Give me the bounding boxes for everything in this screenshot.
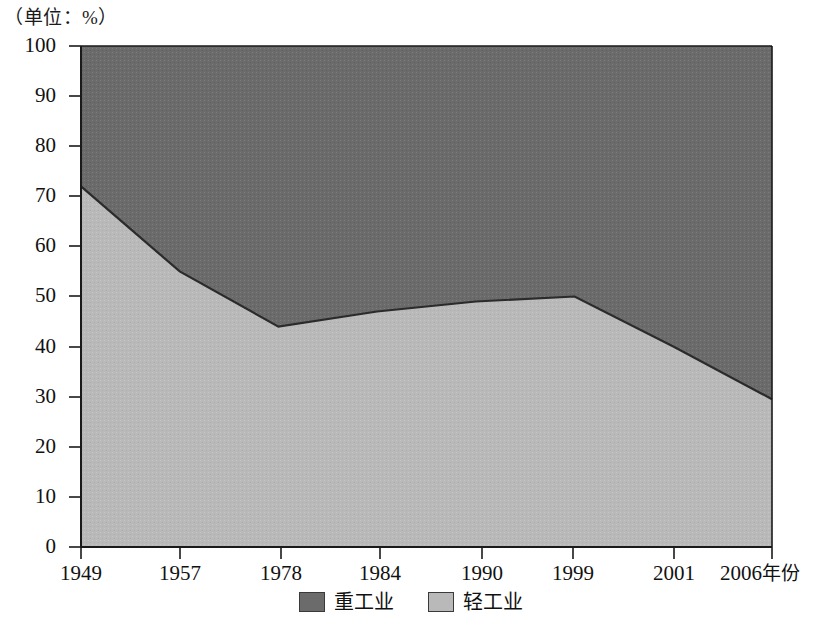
legend-item-light-industry: 轻工业 [428, 592, 523, 612]
y-tick-label-10: 10 [4, 486, 56, 507]
x-axis-ticks [81, 547, 772, 559]
y-axis-ticks [69, 46, 81, 547]
y-tick-label-100: 100 [4, 35, 56, 56]
chart-legend: 重工业 轻工业 [0, 592, 822, 612]
legend-label-light-industry: 轻工业 [463, 592, 523, 612]
x-tick-label-1999: 1999 [552, 563, 594, 584]
stacked-area-chart [0, 0, 822, 621]
y-tick-label-50: 50 [4, 285, 56, 306]
legend-item-heavy-industry: 重工业 [299, 592, 394, 612]
x-tick-label-1984: 1984 [359, 563, 401, 584]
legend-swatch-light-industry [428, 592, 454, 612]
y-tick-label-20: 20 [4, 436, 56, 457]
x-tick-label-2001: 2001 [653, 563, 695, 584]
legend-swatch-heavy-industry [299, 592, 325, 612]
x-tick-label-2006-with-unit: 2006年份 [720, 563, 800, 584]
x-tick-label-1990: 1990 [461, 563, 503, 584]
y-tick-label-70: 70 [4, 185, 56, 206]
y-tick-label-0: 0 [4, 536, 56, 557]
x-tick-label-1978: 1978 [260, 563, 302, 584]
y-tick-label-60: 60 [4, 235, 56, 256]
x-tick-label-1957: 1957 [159, 563, 201, 584]
legend-label-heavy-industry: 重工业 [334, 592, 394, 612]
x-tick-label-1949: 1949 [60, 563, 102, 584]
y-tick-label-40: 40 [4, 336, 56, 357]
y-tick-label-30: 30 [4, 386, 56, 407]
x-axis-unit-label: 年份 [762, 563, 800, 584]
y-tick-label-80: 80 [4, 135, 56, 156]
y-tick-label-90: 90 [4, 85, 56, 106]
x-tick-label-2006: 2006 [720, 561, 762, 585]
chart-page: （单位：%） [0, 0, 822, 621]
